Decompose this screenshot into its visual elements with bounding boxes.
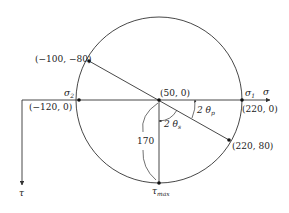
- label-sigma2-coords: (−120, 0): [29, 102, 72, 112]
- radius-bracket-lower: [143, 150, 156, 180]
- label-2theta-p: 2 θp: [196, 105, 215, 117]
- label-sigma1: σ1: [245, 88, 255, 99]
- mohr-circle-diagram: (50, 0) (−100, −80) (220, 80) (220, 0) (…: [0, 0, 289, 213]
- label-tau-max: τmax: [152, 186, 170, 197]
- radius-bracket-upper: [143, 103, 158, 132]
- angle-2theta-p-arc: [192, 100, 195, 118]
- point-sigma1: [240, 98, 244, 102]
- point-tau-max: [157, 181, 161, 185]
- label-2theta-s: 2 θs: [163, 119, 181, 130]
- label-center: (50, 0): [160, 88, 190, 98]
- label-upper-left: (−100, −80): [35, 54, 91, 64]
- label-sigma-axis: σ: [263, 87, 270, 97]
- label-sigma2: σ2: [64, 88, 74, 99]
- label-radius-170: 170: [137, 136, 154, 146]
- point-sigma2: [77, 98, 81, 102]
- point-center: [157, 98, 161, 102]
- label-sigma1-coords: (220, 0): [242, 104, 278, 114]
- point-lower-right: [227, 138, 231, 142]
- label-tau-axis: τ: [19, 188, 25, 198]
- label-lower-right: (220, 80): [232, 141, 273, 151]
